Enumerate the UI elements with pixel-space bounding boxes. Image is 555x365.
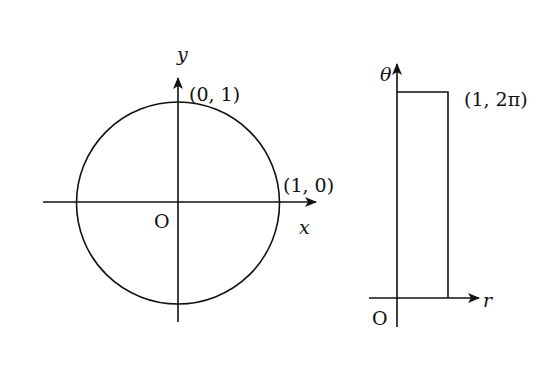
theta-axis-label: θ — [380, 63, 392, 85]
point-label-1-2pi: (1, 2π) — [464, 88, 528, 110]
origin-label-right: O — [372, 307, 388, 329]
point-label-1-0: (1, 0) — [283, 174, 334, 196]
diagram-canvas: y (0, 1) (1, 0) O x θ (1, 2π) r O — [0, 0, 555, 365]
origin-label-left: O — [154, 210, 170, 232]
r-axis-label: r — [483, 289, 494, 311]
y-axis-label: y — [176, 43, 188, 65]
region-rectangle — [397, 92, 448, 298]
point-label-0-1: (0, 1) — [189, 83, 240, 105]
left-panel-circle-plot: y (0, 1) (1, 0) O x — [43, 43, 334, 322]
right-panel-rectangle-plot: θ (1, 2π) r O — [369, 63, 528, 329]
x-axis-label: x — [299, 216, 310, 238]
